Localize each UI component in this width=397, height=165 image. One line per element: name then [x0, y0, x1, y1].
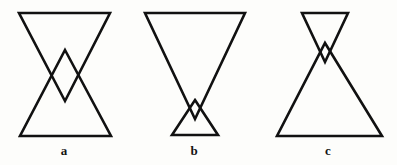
panel-a-up-triangle: [20, 50, 111, 136]
figure-panel: a b c: [0, 0, 397, 165]
panel-c-large-up-triangle: [277, 43, 382, 136]
figure-label-b: b: [182, 144, 206, 158]
figure-label-a: a: [52, 144, 76, 158]
panel-a: [19, 13, 111, 136]
panel-c: [277, 13, 382, 136]
figure-label-c: c: [316, 144, 340, 158]
panel-a-down-triangle: [19, 13, 110, 101]
panel-c-small-down-triangle: [302, 13, 348, 62]
panel-b: [145, 13, 245, 135]
panel-b-large-down-triangle: [145, 13, 245, 119]
figure-drawing: [0, 0, 397, 165]
